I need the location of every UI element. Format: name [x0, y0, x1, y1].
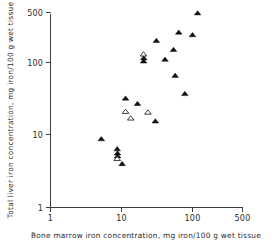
y-axis-title: Total liver iron concentration, mg iron/… — [6, 2, 15, 220]
y-axis-ticks: 1 10 100 500 — [27, 9, 50, 213]
x-axis-title: Bone marrow iron concentration, mg iron/… — [31, 231, 261, 240]
x-tick-label-1: 1 — [48, 214, 53, 223]
x-axis-ticks: 1 10 100 500 — [48, 208, 251, 224]
data-point-filled-triangle-9 — [152, 119, 159, 123]
data-point-filled-triangle-15 — [182, 91, 189, 95]
data-point-filled-triangle-4 — [119, 161, 126, 165]
data-point-open-triangle-1 — [122, 109, 129, 113]
x-tick-label-10: 10 — [116, 214, 127, 223]
data-point-filled-triangle-14 — [175, 30, 182, 34]
y-tick-label-100: 100 — [27, 59, 43, 68]
data-point-filled-triangle-13 — [172, 73, 179, 77]
data-markers-layer — [98, 11, 201, 166]
x-tick-label-500: 500 — [235, 214, 251, 223]
scatter-plot-figure: 1 10 100 500 1 10 100 500 Bone marrow ir… — [0, 0, 272, 246]
y-tick-label-10: 10 — [32, 131, 43, 140]
data-point-filled-triangle-6 — [134, 101, 141, 105]
data-point-filled-triangle-5 — [122, 96, 129, 100]
series-filled-triangle — [98, 11, 201, 166]
data-point-filled-triangle-17 — [194, 11, 201, 15]
data-point-filled-triangle-12 — [170, 47, 177, 51]
x-tick-label-100: 100 — [185, 214, 201, 223]
data-point-open-triangle-4 — [140, 52, 147, 56]
plot-canvas: 1 10 100 500 1 10 100 500 Bone marrow ir… — [0, 0, 272, 246]
data-point-filled-triangle-11 — [162, 57, 169, 61]
data-point-filled-triangle-1 — [114, 147, 121, 151]
data-point-filled-triangle-16 — [189, 32, 196, 36]
data-point-open-triangle-2 — [127, 116, 134, 120]
data-point-filled-triangle-10 — [153, 38, 160, 42]
data-point-filled-triangle-0 — [98, 137, 105, 141]
data-point-open-triangle-3 — [145, 110, 152, 114]
y-tick-label-1: 1 — [38, 204, 43, 213]
series-open-triangle — [114, 52, 151, 161]
y-tick-label-500: 500 — [27, 9, 43, 18]
